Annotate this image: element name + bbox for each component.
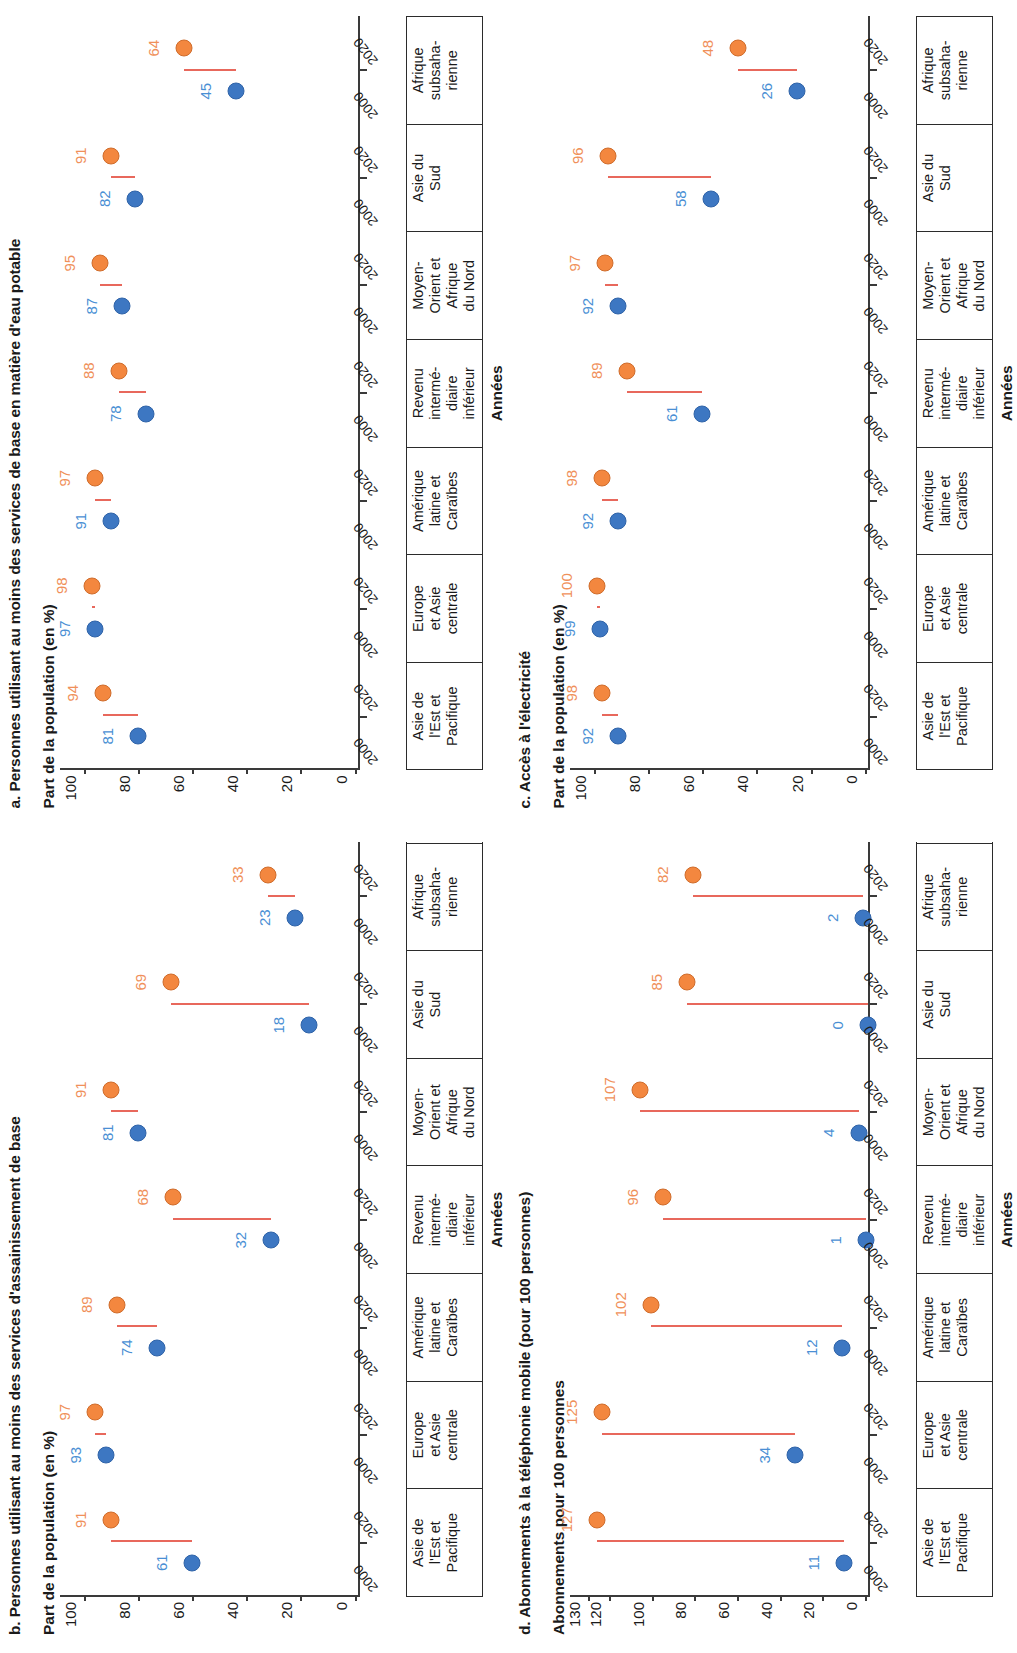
data-point-2000[interactable] <box>113 298 130 315</box>
data-label-2020: 98 <box>563 470 580 487</box>
data-point-2000[interactable] <box>149 1339 166 1356</box>
data-point-2020[interactable] <box>162 974 179 991</box>
data-label-2020: 91 <box>72 1081 89 1098</box>
region-cell: Moyen-Orient etAfriquedu Nord <box>917 231 992 339</box>
region-label-line: Sud <box>427 992 444 1018</box>
region-label-line: subsaha- <box>937 41 954 101</box>
connector-line <box>111 176 135 178</box>
y-tick-label: 40 <box>224 1595 241 1619</box>
data-point-2020[interactable] <box>594 685 611 702</box>
data-point-2020[interactable] <box>599 147 616 164</box>
data-point-2000[interactable] <box>836 1554 853 1571</box>
data-point-2020[interactable] <box>678 974 695 991</box>
data-point-2000[interactable] <box>610 728 627 745</box>
x-tick-group: 20002020 <box>870 124 916 232</box>
data-point-2000[interactable] <box>86 620 103 637</box>
data-point-2000[interactable] <box>787 1447 804 1464</box>
data-point-2000[interactable] <box>127 190 144 207</box>
y-tick-label: 0 <box>332 769 349 784</box>
y-tick-label: 40 <box>757 1595 774 1619</box>
data-point-2020[interactable] <box>594 470 611 487</box>
region-cell: Afriquesubsaha-rienne <box>407 16 482 124</box>
region-label-line: intermé- <box>427 1193 444 1246</box>
data-point-2000[interactable] <box>610 298 627 315</box>
data-point-2020[interactable] <box>729 40 746 57</box>
region-label-line: Revenu <box>920 1195 937 1245</box>
data-point-2000[interactable] <box>138 405 155 422</box>
data-point-2020[interactable] <box>655 1189 672 1206</box>
data-point-2000[interactable] <box>103 513 120 530</box>
data-point-2020[interactable] <box>593 1404 610 1421</box>
region-label-line: Revenu <box>410 368 427 418</box>
data-point-2020[interactable] <box>176 40 193 57</box>
y-tick-mark <box>702 769 704 775</box>
region-label-line: Revenu <box>410 1195 427 1245</box>
data-point-2000[interactable] <box>184 1554 201 1571</box>
data-point-2020[interactable] <box>642 1296 659 1313</box>
y-tick-mark <box>138 1595 140 1601</box>
data-point-2020[interactable] <box>103 1511 120 1528</box>
region-label-line: Amérique <box>920 1296 937 1358</box>
y-tick-label: 0 <box>842 769 859 784</box>
data-point-2000[interactable] <box>97 1447 114 1464</box>
data-point-2000[interactable] <box>591 620 608 637</box>
x-tick-group: 20002020 <box>360 555 406 663</box>
data-point-2000[interactable] <box>789 83 806 100</box>
data-point-2020[interactable] <box>631 1081 648 1098</box>
y-tick-label: 80 <box>115 769 132 793</box>
data-point-2020[interactable] <box>596 255 613 272</box>
region-cell: Revenuintermé-diaireinférieur <box>917 339 992 447</box>
data-point-2000[interactable] <box>834 1339 851 1356</box>
region-label-line: rienne <box>444 50 461 90</box>
data-point-2020[interactable] <box>618 362 635 379</box>
region-cell: Moyen-Orient etAfriquedu Nord <box>407 231 482 339</box>
data-point-2020[interactable] <box>84 577 101 594</box>
region-group: 9798 <box>60 554 358 662</box>
data-point-2020[interactable] <box>685 866 702 883</box>
region-label-line: Afrique <box>954 1089 971 1135</box>
data-point-2020[interactable] <box>589 1511 606 1528</box>
data-point-2000[interactable] <box>262 1232 279 1249</box>
region-label-line: Asie du <box>410 980 427 1028</box>
region-label-line: Europe <box>920 1412 937 1459</box>
data-point-2000[interactable] <box>227 83 244 100</box>
data-point-2000[interactable] <box>610 513 627 530</box>
data-point-2000[interactable] <box>287 909 304 926</box>
data-point-2000[interactable] <box>130 1124 147 1141</box>
data-point-2020[interactable] <box>103 1081 120 1098</box>
data-point-2000[interactable] <box>130 728 147 745</box>
data-point-2020[interactable] <box>103 147 120 164</box>
data-point-2000[interactable] <box>300 1017 317 1034</box>
data-point-2020[interactable] <box>94 685 111 702</box>
data-point-2000[interactable] <box>694 405 711 422</box>
data-point-2000[interactable] <box>702 190 719 207</box>
data-point-2020[interactable] <box>86 1404 103 1421</box>
data-label-2000: 82 <box>96 190 113 207</box>
y-tick-mark <box>694 1595 696 1601</box>
y-tick-label: 0 <box>842 1595 859 1610</box>
data-point-2020[interactable] <box>108 1296 125 1313</box>
connector-line <box>738 69 798 71</box>
data-point-2020[interactable] <box>111 362 128 379</box>
data-point-2020[interactable] <box>165 1189 182 1206</box>
connector-line <box>605 284 619 286</box>
region-label-line: et Asie <box>937 587 954 631</box>
region-cell: Revenuintermé-diaireinférieur <box>407 339 482 447</box>
region-label-line: inférieur <box>971 367 988 419</box>
y-tick-mark <box>865 1595 867 1601</box>
x-tick-group: 20002020 <box>360 1166 406 1274</box>
connector-line <box>693 895 863 897</box>
data-point-2020[interactable] <box>92 255 109 272</box>
data-point-2020[interactable] <box>86 470 103 487</box>
region-label-line: Amérique <box>920 470 937 532</box>
data-label-2000: 58 <box>671 190 688 207</box>
data-point-2020[interactable] <box>260 866 277 883</box>
x-tick-group: 20002020 <box>870 663 916 771</box>
region-label-line: Pacifique <box>954 1513 971 1573</box>
data-point-2020[interactable] <box>588 577 605 594</box>
region-cell: Revenuintermé-diaireinférieur <box>917 1165 992 1273</box>
x-tick-group: 20002020 <box>870 1058 916 1166</box>
data-label-2020: 97 <box>566 255 583 272</box>
region-label-line: rienne <box>444 877 461 917</box>
panel-a: a. Personnes utilisant au moins des serv… <box>0 0 510 827</box>
